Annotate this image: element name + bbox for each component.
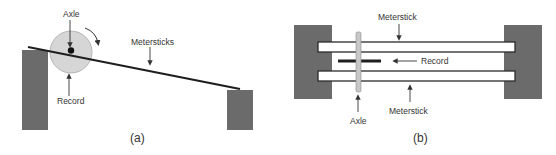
panel-a: Axle Record Metersticks (a) (22, 9, 253, 145)
record-label: Record (57, 96, 85, 106)
metersticks-label: Metersticks (131, 37, 174, 47)
axle-rod (356, 32, 361, 92)
caption-a: (a) (130, 131, 145, 145)
meterstick-bottom-label: Meterstick (389, 106, 428, 116)
axle-label-b: Axle (350, 116, 367, 126)
left-support-block-b (294, 25, 332, 99)
meterstick-bottom (318, 71, 515, 81)
axle-dot (68, 47, 74, 53)
caption-b: (b) (413, 131, 428, 145)
meterstick-top-label: Meterstick (378, 12, 417, 22)
right-support-block-b (504, 25, 542, 99)
diagram-canvas: Axle Record Metersticks (a) Meterstick R… (0, 0, 556, 155)
axle-label: Axle (63, 9, 80, 19)
left-support-block (22, 50, 48, 130)
meterstick-top (318, 42, 515, 52)
right-support-block (227, 90, 253, 130)
panel-b: Meterstick Record Meterstick Axle (b) (294, 12, 542, 145)
record-label-b: Record (421, 56, 449, 66)
